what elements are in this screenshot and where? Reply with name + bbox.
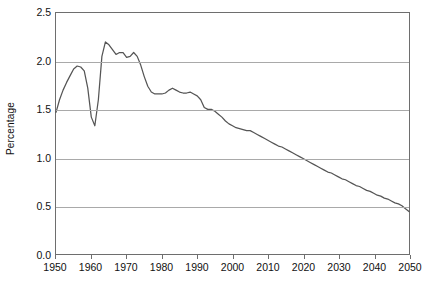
y-tick-label: 1.5 bbox=[3, 103, 51, 115]
gridline-y-1.5 bbox=[56, 110, 409, 111]
y-tick-label: 2.0 bbox=[3, 55, 51, 67]
x-tick-mark bbox=[304, 255, 305, 259]
line-series-svg bbox=[56, 13, 409, 254]
x-tick-mark bbox=[162, 255, 163, 259]
x-tick-mark bbox=[410, 255, 411, 259]
y-tick-label: 0.0 bbox=[3, 249, 51, 261]
y-tick-label: 2.5 bbox=[3, 6, 51, 18]
x-axis-tick-labels: 1950196019701980199020002010202020302040… bbox=[55, 255, 410, 285]
x-tick-mark bbox=[126, 255, 127, 259]
gridline-y-1.0 bbox=[56, 159, 409, 160]
x-tick-mark bbox=[197, 255, 198, 259]
x-tick-mark bbox=[268, 255, 269, 259]
y-tick-label: 1.0 bbox=[3, 152, 51, 164]
x-tick-mark bbox=[55, 255, 56, 259]
y-tick-label: 0.5 bbox=[3, 200, 51, 212]
x-tick-label: 2050 bbox=[388, 261, 432, 273]
x-tick-mark bbox=[91, 255, 92, 259]
x-tick-mark bbox=[339, 255, 340, 259]
plot-area bbox=[55, 12, 410, 255]
chart-container: Percentage 0.00.51.01.52.02.5 1950196019… bbox=[0, 0, 433, 286]
gridline-y-0.5 bbox=[56, 207, 409, 208]
x-tick-mark bbox=[233, 255, 234, 259]
y-axis-tick-labels: 0.00.51.01.52.02.5 bbox=[0, 0, 51, 286]
x-tick-mark bbox=[375, 255, 376, 259]
line-series-path bbox=[56, 42, 409, 212]
gridline-y-2.0 bbox=[56, 62, 409, 63]
